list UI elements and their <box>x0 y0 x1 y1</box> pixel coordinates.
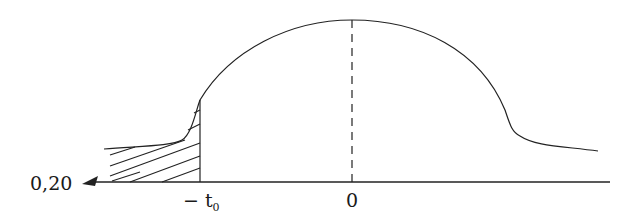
zero-label: 0 <box>346 191 358 210</box>
diagram-canvas <box>0 0 638 223</box>
origin-value-label: 0,20 <box>30 174 72 193</box>
minus-t0-label: − t0 <box>183 191 220 213</box>
minus-t0-subscript: 0 <box>213 201 220 214</box>
minus-t0-text: − t <box>183 189 213 211</box>
arrow-left-icon <box>82 176 98 186</box>
bell-curve <box>104 20 598 151</box>
